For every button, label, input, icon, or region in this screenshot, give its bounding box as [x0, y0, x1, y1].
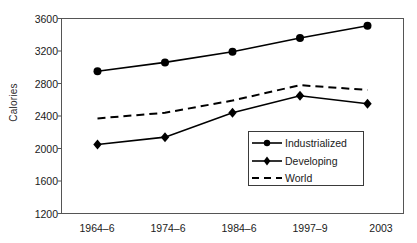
calories-line-chart: Calories 3600 3200 2800 2400 2000 1600 1…	[0, 0, 417, 243]
legend-item-industrialized: Industrialized	[249, 134, 365, 152]
legend-label-developing: Developing	[285, 155, 338, 167]
data-point-industrialized	[94, 67, 102, 75]
legend-item-developing: Developing	[249, 152, 365, 170]
data-point-developing	[363, 99, 371, 109]
data-point-developing	[161, 132, 169, 142]
data-point-developing	[93, 139, 101, 149]
legend-label-world: World	[285, 172, 312, 184]
plot-area	[0, 0, 417, 243]
data-point-developing	[296, 91, 304, 101]
legend-swatch-industrialized	[249, 134, 285, 152]
legend-label-industrialized: Industrialized	[285, 137, 347, 149]
data-point-industrialized	[296, 34, 304, 42]
legend-item-world: World	[249, 169, 365, 187]
legend-swatch-world	[249, 169, 285, 187]
data-point-developing	[228, 108, 236, 118]
data-point-industrialized	[229, 48, 237, 56]
data-point-industrialized	[161, 58, 169, 66]
data-point-industrialized	[364, 22, 372, 30]
legend-swatch-developing	[249, 152, 285, 170]
axis-ticks	[58, 19, 62, 214]
chart-legend: Industrialized Developing World	[248, 131, 364, 186]
